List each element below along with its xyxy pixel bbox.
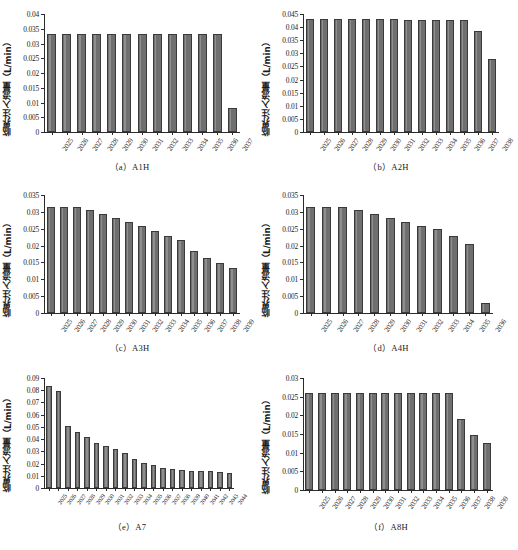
y-tick-mark <box>300 53 303 54</box>
y-tick-label: 0.035 <box>23 24 39 33</box>
y-tick-label: 0.02 <box>286 411 298 420</box>
x-tick-label: 2029 <box>121 137 135 153</box>
bar <box>122 453 128 488</box>
y-tick-label: 0.005 <box>282 292 298 301</box>
y-axis-label: 临界注入流量（L/min） <box>2 193 14 317</box>
bar <box>419 393 427 490</box>
bar <box>183 34 192 132</box>
x-tick-label: 2038 <box>180 493 191 506</box>
y-tick-mark <box>41 229 44 230</box>
x-tick-label: 2028 <box>99 318 113 334</box>
y-tick-label: 0.03 <box>286 374 298 383</box>
y-tick-label: 0.005 <box>282 114 298 123</box>
bar <box>362 19 371 132</box>
bar <box>390 19 399 132</box>
x-tick-mark <box>360 490 361 493</box>
x-tick-label: 2033 <box>164 318 178 334</box>
y-tick-mark <box>41 313 44 314</box>
bar <box>481 303 490 313</box>
y-tick-mark <box>41 262 44 263</box>
bar <box>217 472 223 489</box>
y-tick-mark <box>41 439 44 440</box>
y-tick-mark <box>41 212 44 213</box>
bar <box>417 226 426 313</box>
y-tick-label: 0.035 <box>282 191 298 200</box>
y-tick-label: 0.02 <box>286 241 298 250</box>
bar <box>65 426 71 488</box>
x-tick-mark <box>155 313 156 316</box>
bar <box>198 471 204 488</box>
bar <box>77 34 86 132</box>
x-tick-mark <box>322 490 323 493</box>
bar <box>216 263 224 313</box>
y-tick-mark <box>41 296 44 297</box>
x-tick-mark <box>181 313 182 316</box>
x-tick-mark <box>436 132 437 135</box>
bar <box>113 449 119 488</box>
bar <box>138 34 147 132</box>
y-tick-label: 0.01 <box>286 101 298 110</box>
bar <box>418 20 427 132</box>
y-tick-label: 0.025 <box>23 224 39 233</box>
x-tick-label: 2044 <box>237 493 248 506</box>
y-axis-line <box>303 14 304 133</box>
y-tick-label: 0 <box>295 486 299 495</box>
x-tick-mark <box>233 313 234 316</box>
bar <box>306 207 315 313</box>
x-tick-mark <box>220 313 221 316</box>
x-tick-mark <box>127 132 128 135</box>
y-tick-mark <box>300 212 303 213</box>
chart-panel-b: 临界注入流量（L/min）00.0050.010.0150.020.0250.0… <box>259 0 518 185</box>
x-tick-mark <box>310 132 311 135</box>
x-tick-label: 2028 <box>367 318 381 334</box>
y-tick-label: 0.01 <box>286 448 298 457</box>
figure-grid: 临界注入流量（L/min）00.0050.010.0150.020.0250.0… <box>0 0 518 550</box>
bar <box>305 393 313 490</box>
x-tick-label: 2030 <box>381 495 395 511</box>
y-tick-mark <box>41 103 44 104</box>
y-tick-label: 0.015 <box>282 88 298 97</box>
y-tick-label: 0.04 <box>27 435 39 444</box>
x-tick-mark <box>347 490 348 493</box>
x-tick-label: 2028 <box>361 137 375 153</box>
y-axis-label: 临界注入流量（L/min） <box>261 376 273 494</box>
x-tick-label: 2029 <box>383 318 397 334</box>
x-tick-label: 2025 <box>320 318 334 334</box>
x-tick-mark <box>87 488 88 491</box>
bar <box>198 34 207 132</box>
y-tick-mark <box>300 279 303 280</box>
bar <box>401 222 410 313</box>
bar <box>107 34 116 132</box>
x-tick-label: 2042 <box>218 493 229 506</box>
x-tick-label: 2032 <box>166 137 180 153</box>
x-tick-label: 2030 <box>389 137 403 153</box>
bar <box>227 473 233 488</box>
bar <box>369 393 377 490</box>
bar <box>60 207 68 313</box>
x-tick-label: 2037 <box>241 137 255 153</box>
y-tick-mark <box>41 488 44 489</box>
y-tick-mark <box>41 195 44 196</box>
y-tick-mark <box>300 119 303 120</box>
x-tick-label: 2040 <box>199 493 210 506</box>
panel-caption-a: （a）A1H <box>0 160 259 172</box>
y-tick-label: 0.02 <box>27 69 39 78</box>
y-tick-mark <box>300 296 303 297</box>
bar <box>153 34 162 132</box>
bar <box>141 463 147 488</box>
chart-panel-d: 临界注入流量（L/min）00.0050.010.0150.020.0250.0… <box>259 185 518 370</box>
x-tick-label: 2036 <box>226 137 240 153</box>
y-tick-mark <box>300 313 303 314</box>
bar <box>338 207 347 313</box>
x-tick-label: 2036 <box>457 495 471 511</box>
x-tick-label: 2032 <box>151 318 165 334</box>
x-tick-label: 2027 <box>347 137 361 153</box>
y-tick-label: 0.005 <box>23 292 39 301</box>
bar <box>331 393 339 490</box>
bar <box>99 214 107 313</box>
x-tick-mark <box>229 488 230 491</box>
x-tick-mark <box>352 132 353 135</box>
y-tick-mark <box>41 132 44 133</box>
x-tick-mark <box>207 313 208 316</box>
chart-panel-e: 临界注入流量（L/min）00.010.020.030.040.050.060.… <box>0 370 259 550</box>
